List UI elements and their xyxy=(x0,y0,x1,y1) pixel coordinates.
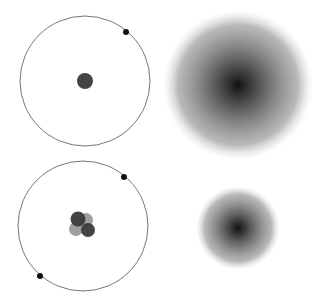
electron-cloud xyxy=(163,10,313,160)
electron-dot xyxy=(121,174,127,180)
electron-dot xyxy=(37,273,43,279)
atom-diagram xyxy=(0,0,322,304)
electron-cloud xyxy=(196,186,280,270)
nucleus-particle xyxy=(71,212,86,227)
electron-dot xyxy=(123,29,129,35)
nucleus-particle xyxy=(77,73,93,89)
nucleus-particle xyxy=(81,223,95,237)
